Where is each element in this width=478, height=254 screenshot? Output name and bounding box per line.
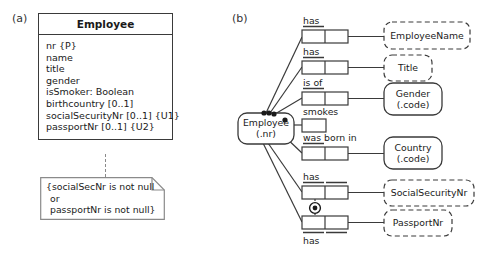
orm-object-country-refmode: (.code) bbox=[384, 153, 442, 164]
orm-object-gender-name: Gender bbox=[384, 88, 442, 99]
orm-object-employeename-label: EmployeeName bbox=[384, 30, 470, 41]
orm-predicate-5 bbox=[302, 144, 384, 161]
orm-inclusive-or-constraint bbox=[310, 199, 321, 216]
orm-predicate-label-4: smokes bbox=[303, 106, 338, 117]
figure-root: (a) Employee nr {P}nametitlegenderisSmok… bbox=[0, 0, 478, 254]
orm-predicate-4 bbox=[302, 119, 326, 132]
orm-object-country-name: Country bbox=[384, 142, 442, 153]
orm-predicate-2 bbox=[302, 58, 384, 75]
orm-predicate-label-2: has bbox=[303, 46, 319, 57]
orm-entity-employee-refmode: (.nr) bbox=[238, 128, 294, 139]
orm-object-title-label: Title bbox=[384, 62, 432, 73]
orm-object-gender-refmode: (.code) bbox=[384, 99, 442, 110]
orm-object-country-label: Country (.code) bbox=[384, 142, 442, 164]
orm-predicate-label-1: has bbox=[303, 15, 319, 26]
orm-predicate-3 bbox=[302, 89, 384, 106]
orm-predicate-label-5: was born in bbox=[303, 132, 357, 143]
orm-predicate-1 bbox=[302, 27, 384, 44]
orm-entity-employee-label: Employee (.nr) bbox=[238, 117, 294, 139]
orm-entity-employee-name: Employee bbox=[238, 117, 294, 128]
orm-predicate-7 bbox=[302, 216, 384, 233]
orm-object-passportnr-label: PassportNr bbox=[384, 217, 452, 228]
orm-object-socialsecuritynr-label: SocialSecurityNr bbox=[384, 187, 474, 198]
orm-predicate-label-7: has bbox=[303, 235, 319, 246]
orm-predicate-6 bbox=[302, 183, 384, 200]
orm-predicate-label-3: is of bbox=[303, 77, 322, 88]
orm-object-gender-label: Gender (.code) bbox=[384, 88, 442, 110]
orm-diagram: has has is of smokes was born in has has… bbox=[0, 0, 478, 254]
orm-predicate-label-6: has bbox=[303, 171, 319, 182]
